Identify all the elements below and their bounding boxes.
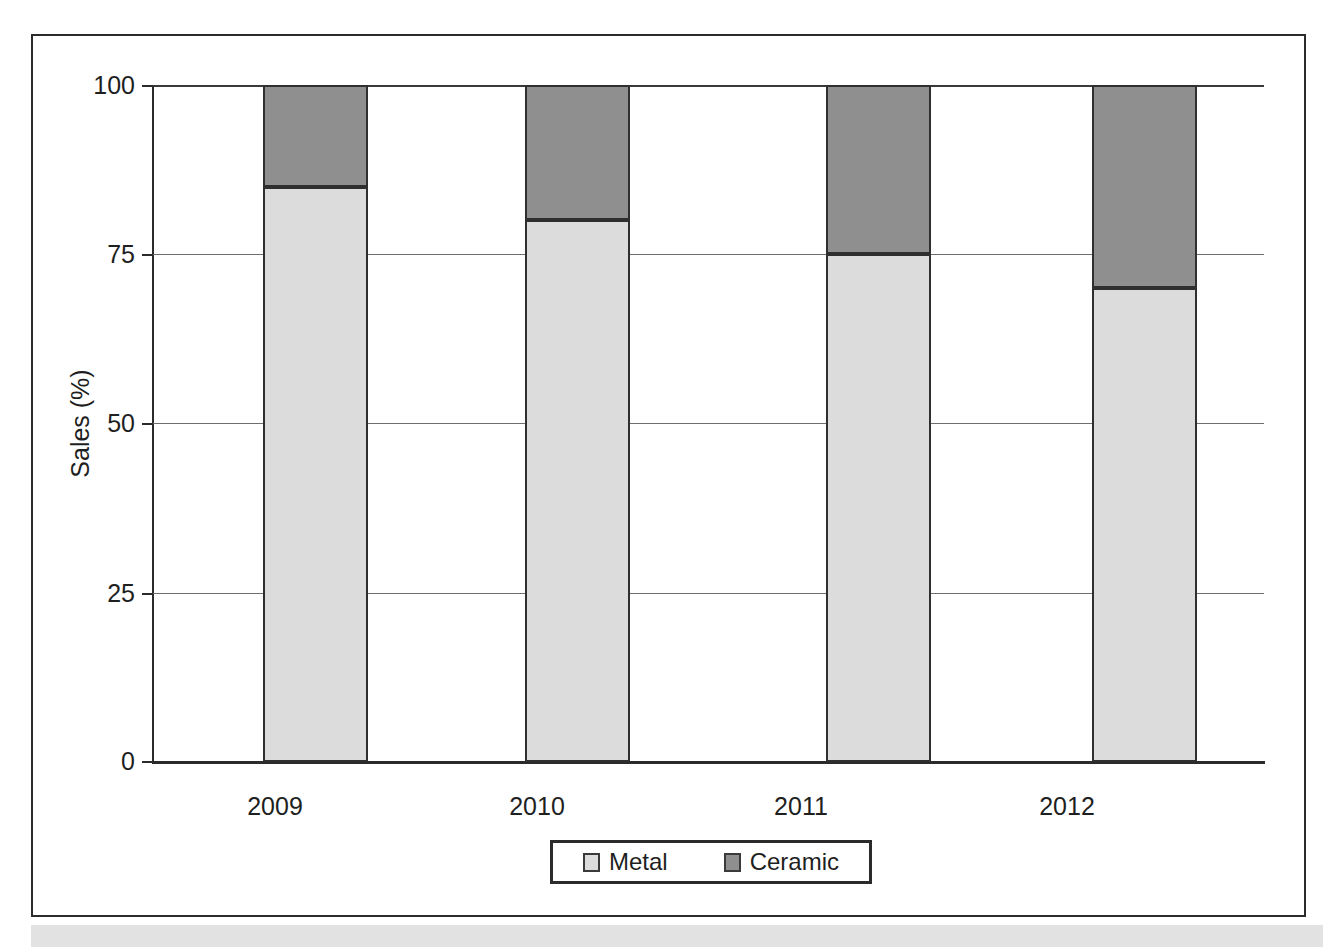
bar-segment-ceramic-2012: [1092, 85, 1197, 288]
legend-item-ceramic[interactable]: Ceramic: [724, 850, 839, 874]
page-bottom-band: [31, 925, 1323, 947]
figure-frame: Sales (%) 100 75 50 25 0: [31, 34, 1306, 917]
legend-item-metal[interactable]: Metal: [583, 850, 668, 874]
y-tick-label-0: 0: [121, 749, 135, 774]
y-axis-title-label: Sales (%): [66, 369, 95, 477]
y-tick-label-50: 50: [107, 411, 135, 436]
tick-mark-75: [142, 254, 153, 256]
bar-segment-ceramic-2011: [826, 85, 931, 254]
plot-area: 100 75 50 25 0: [153, 85, 1264, 762]
stacked-bar-chart: Sales (%) 100 75 50 25 0: [33, 36, 1308, 919]
bar-segment-metal-2012: [1092, 288, 1197, 762]
bar-segment-metal-2009: [263, 187, 368, 762]
bar-segment-metal-2011: [826, 254, 931, 762]
tick-mark-0: [142, 761, 153, 763]
x-axis-label-2009: 2009: [185, 794, 365, 819]
bar-segment-ceramic-2009: [263, 85, 368, 187]
x-axis-label-2012: 2012: [977, 794, 1157, 819]
tick-mark-100: [142, 85, 153, 87]
y-tick-label-25: 25: [107, 581, 135, 606]
x-axis-label-2011: 2011: [711, 794, 891, 819]
legend-label-ceramic: Ceramic: [750, 850, 839, 874]
x-axis-label-2010: 2010: [447, 794, 627, 819]
light-gray-square-icon: [583, 853, 600, 872]
tick-mark-50: [142, 423, 153, 425]
legend-label-metal: Metal: [609, 850, 668, 874]
tick-mark-25: [142, 593, 153, 595]
y-axis-title: Sales (%): [63, 85, 97, 762]
chart-legend: Metal Ceramic: [550, 840, 872, 884]
dark-gray-square-icon: [724, 853, 741, 872]
bar-segment-ceramic-2010: [525, 85, 630, 220]
bar-segment-metal-2010: [525, 220, 630, 762]
y-tick-label-100: 100: [93, 73, 135, 98]
y-tick-label-75: 75: [107, 242, 135, 267]
